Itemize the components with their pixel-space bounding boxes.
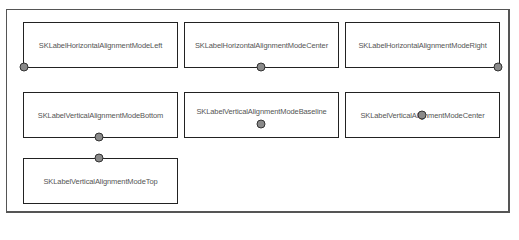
anchor-point-icon [95,133,104,142]
anchor-point-icon [257,120,266,129]
box-horizontal-center: SKLabelHorizontalAlignmentModeCenter [184,22,339,68]
box-vertical-top: SKLabelVerticalAlignmentModeTop [23,158,178,204]
anchor-point-icon [20,63,29,72]
box-label: SKLabelVerticalAlignmentModeBottom [38,111,163,120]
anchor-point-icon [257,63,266,72]
anchor-point-icon [494,63,503,72]
box-vertical-bottom: SKLabelVerticalAlignmentModeBottom [23,92,178,138]
box-label: SKLabelVerticalAlignmentModeBaseline [196,107,326,116]
box-vertical-baseline: SKLabelVerticalAlignmentModeBaseline [184,92,339,138]
box-label: SKLabelVerticalAlignmentModeTop [43,177,157,186]
box-label: SKLabelHorizontalAlignmentModeRight [358,41,486,50]
anchor-point-icon [95,154,104,163]
box-horizontal-left: SKLabelHorizontalAlignmentModeLeft [23,22,178,68]
box-horizontal-right: SKLabelHorizontalAlignmentModeRight [345,22,500,68]
anchor-point-icon [418,111,427,120]
box-label: SKLabelHorizontalAlignmentModeCenter [195,41,328,50]
box-label: SKLabelHorizontalAlignmentModeLeft [39,41,162,50]
